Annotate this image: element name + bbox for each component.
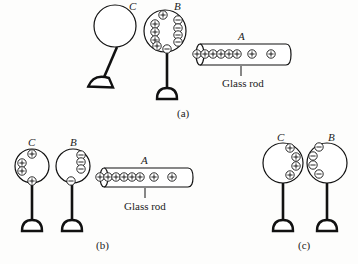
- sphere-b-c: B: [307, 131, 347, 231]
- caption-a: (a): [177, 107, 190, 120]
- panel-c: C B (c): [263, 131, 347, 252]
- label-b-b: B: [70, 136, 77, 148]
- label-c-c: C: [277, 131, 285, 143]
- glass-rod-label-b: Glass rod: [124, 200, 166, 212]
- sphere-c-c: C: [263, 131, 303, 231]
- diagram-canvas: C B: [0, 0, 358, 264]
- glass-rod-b: A Glass rod: [96, 154, 193, 212]
- label-c-a: C: [129, 0, 137, 12]
- label-b-c: B: [328, 131, 335, 143]
- caption-c: (c): [298, 239, 311, 252]
- glass-rod-a: A Glass rod: [193, 30, 291, 89]
- sphere-c-b: C: [15, 136, 49, 231]
- panel-b: C B A: [15, 136, 193, 252]
- sphere-b-b: B: [56, 136, 90, 231]
- panel-a: C B: [87, 0, 291, 120]
- sphere-b-a: B: [144, 0, 186, 99]
- label-a-b: A: [140, 154, 148, 166]
- caption-b: (b): [96, 239, 109, 252]
- label-b-a: B: [174, 0, 181, 12]
- glass-rod-label-a: Glass rod: [222, 77, 264, 89]
- label-c-b: C: [28, 136, 36, 148]
- induction-diagram: C B: [0, 0, 358, 264]
- label-a-a: A: [237, 30, 245, 42]
- sphere-c-a: C: [87, 0, 137, 92]
